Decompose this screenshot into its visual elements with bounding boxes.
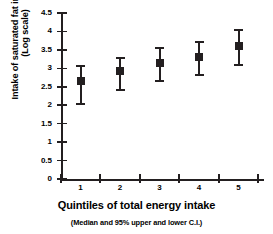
y-tick bbox=[57, 68, 67, 70]
y-tick bbox=[57, 123, 67, 125]
x-tick-label: 2 bbox=[118, 184, 122, 192]
y-tick bbox=[57, 31, 67, 33]
error-bar-cap-upper bbox=[76, 65, 85, 67]
error-bar-cap-upper bbox=[195, 41, 204, 43]
x-tick bbox=[257, 174, 259, 183]
error-bar-cap-upper bbox=[155, 47, 164, 49]
median-marker bbox=[77, 77, 85, 85]
x-axis-subtitle: (Median and 95% upper and lower C.I.) bbox=[0, 218, 273, 227]
y-tick bbox=[57, 49, 67, 51]
y-tick-label: 4.5 bbox=[41, 9, 52, 17]
y-tick bbox=[57, 178, 67, 180]
y-axis-line bbox=[61, 12, 63, 181]
x-tick bbox=[60, 174, 62, 183]
y-axis-title-line1: Intake of saturated fat in grams bbox=[10, 0, 20, 100]
x-tick-label: 4 bbox=[197, 184, 201, 192]
chart-figure: Intake of saturated fat in grams (Log sc… bbox=[0, 0, 273, 234]
y-tick bbox=[57, 141, 67, 143]
error-bar-cap-lower bbox=[155, 80, 164, 82]
y-tick-label: 2.5 bbox=[41, 83, 52, 91]
y-axis-title: Intake of saturated fat in grams (Log sc… bbox=[5, 0, 35, 117]
error-bar-cap-lower bbox=[195, 74, 204, 76]
median-marker bbox=[195, 53, 203, 61]
plot-area: 00.511.522.533.544.5 12345 bbox=[61, 12, 264, 181]
x-tick bbox=[139, 174, 141, 183]
y-tick-label: 2 bbox=[48, 101, 52, 109]
y-axis-title-line2: (Log scale) bbox=[20, 9, 30, 56]
y-tick-label: 0.5 bbox=[41, 157, 52, 165]
x-tick bbox=[218, 174, 220, 183]
y-tick-label: 4 bbox=[48, 27, 52, 35]
y-tick-label: 0 bbox=[48, 175, 52, 183]
error-bar-cap-upper bbox=[234, 29, 243, 31]
error-bar-cap-lower bbox=[116, 89, 125, 91]
y-tick bbox=[57, 86, 67, 88]
median-marker bbox=[156, 59, 164, 67]
error-bar-cap-lower bbox=[234, 64, 243, 66]
y-tick-label: 3.5 bbox=[41, 46, 52, 54]
y-tick bbox=[57, 160, 67, 162]
x-axis-line bbox=[61, 179, 264, 181]
median-marker bbox=[235, 42, 243, 50]
x-axis-title: Quintiles of total energy intake bbox=[0, 199, 273, 211]
error-bar-cap-lower bbox=[76, 103, 85, 105]
x-tick bbox=[99, 174, 101, 183]
x-tick-label: 5 bbox=[236, 184, 240, 192]
x-tick bbox=[178, 174, 180, 183]
error-bar-line bbox=[80, 66, 82, 104]
y-tick-label: 3 bbox=[48, 64, 52, 72]
median-marker bbox=[116, 67, 124, 75]
y-tick-label: 1 bbox=[48, 138, 52, 146]
x-tick-label: 3 bbox=[157, 184, 161, 192]
y-tick-label: 1.5 bbox=[41, 120, 52, 128]
x-tick-label: 1 bbox=[78, 184, 82, 192]
error-bar-cap-upper bbox=[116, 57, 125, 59]
y-tick bbox=[57, 104, 67, 106]
y-tick bbox=[57, 12, 67, 14]
